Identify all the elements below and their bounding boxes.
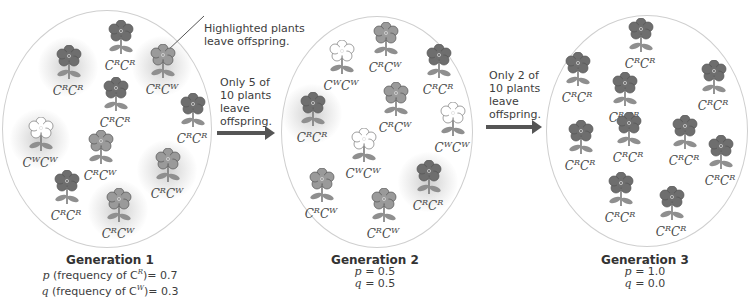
flower-plant: CRCR — [46, 170, 86, 226]
flower-icon — [565, 52, 591, 90]
flower-icon — [300, 92, 326, 130]
genotype-label: CRCW — [357, 60, 413, 75]
genotype-label: CRCR — [284, 130, 340, 145]
flower-icon — [56, 45, 82, 83]
note-line: Highlighted plants — [204, 22, 305, 35]
genotype-label: CRCR — [38, 208, 94, 223]
note-line: 10 plants — [489, 82, 541, 95]
transition-1-arrow-icon — [217, 131, 267, 135]
flower-icon — [28, 117, 54, 155]
flower-icon — [351, 128, 377, 166]
flower-plant: CRCW — [363, 188, 403, 244]
flower-plant: CRCR — [600, 172, 640, 228]
q-symbol: q — [625, 277, 632, 290]
flower-icon — [150, 44, 176, 82]
note-line: Only 5 of — [220, 76, 272, 89]
flower-icon — [180, 93, 206, 131]
flower-plant: CRCW — [80, 130, 120, 186]
genotype-label: CRCR — [600, 150, 656, 165]
flower-icon — [426, 44, 452, 82]
note-line: leave — [489, 95, 541, 108]
flower-plant: CRCR — [664, 115, 704, 171]
note-line: leave — [220, 102, 272, 115]
note-line: leave offspring. — [204, 35, 305, 48]
p-label: (frequency of C — [50, 269, 138, 282]
flower-plant: CRCR — [560, 120, 600, 176]
flower-icon — [108, 20, 134, 58]
generation-title: Generation 1 — [20, 254, 200, 266]
flower-icon — [608, 172, 634, 210]
highlighted-plants-note: Highlighted plants leave offspring. — [204, 22, 305, 48]
q-label: (frequency of C — [49, 284, 137, 297]
genotype-label: CWCW — [335, 166, 391, 181]
flower-plant: CWCW — [432, 102, 472, 158]
genotype-label: CWCW — [12, 155, 68, 170]
flower-icon — [659, 186, 685, 224]
genotype-label: CRCW — [90, 226, 146, 241]
note-line: 10 plants — [220, 89, 272, 102]
genotype-label: CRCR — [400, 198, 456, 213]
flower-plant: CRCR — [292, 92, 332, 148]
flower-icon — [701, 60, 727, 98]
flower-plant: CRCR — [95, 77, 135, 133]
flower-icon — [329, 40, 355, 78]
p-symbol: p — [42, 269, 49, 282]
flower-plant: CRCR — [620, 18, 660, 74]
flower-icon — [106, 188, 132, 226]
generation-3-caption: Generation 3 p = 1.0 q = 0.0 — [585, 254, 705, 290]
flower-plant: CRCR — [48, 45, 88, 101]
genotype-label: CRCR — [692, 173, 748, 188]
q-value: )= 0.3 — [144, 284, 179, 297]
q-value: = 0.0 — [632, 277, 666, 290]
flower-plant: CRCR — [408, 160, 448, 216]
flower-icon — [628, 18, 654, 56]
transition-1-note: Only 5 of 10 plants leave offspring. — [220, 76, 272, 128]
flower-icon — [88, 130, 114, 168]
flower-plant: CRCW — [142, 44, 182, 100]
genotype-label: CRCW — [355, 226, 411, 241]
flower-plant: CRCW — [365, 22, 405, 78]
flower-plant: CWCW — [20, 117, 60, 173]
note-line: Only 2 of — [489, 69, 541, 82]
flower-plant: CRCR — [418, 44, 458, 100]
genotype-label: CRCR — [87, 115, 143, 130]
p-value: )= 0.7 — [143, 269, 178, 282]
flower-plant: CRCR — [608, 112, 648, 168]
flower-icon — [383, 82, 409, 120]
flower-icon — [54, 170, 80, 208]
genotype-label: CRCW — [139, 186, 195, 201]
flower-plant: CRCW — [98, 188, 138, 244]
flower-plant: CRCW — [301, 168, 341, 224]
genotype-label: CRCR — [643, 224, 699, 239]
flower-icon — [416, 160, 442, 198]
q-value: = 0.5 — [362, 277, 396, 290]
flower-icon — [612, 72, 638, 110]
flower-plant: CRCR — [172, 93, 212, 149]
flower-icon — [672, 115, 698, 153]
q-frequency: q = 0.5 — [315, 278, 435, 290]
flower-icon — [309, 168, 335, 206]
genotype-label: CRCR — [592, 210, 648, 225]
flower-plant: CRCR — [651, 186, 691, 242]
flower-icon — [103, 77, 129, 115]
flower-plant: CRCW — [147, 148, 187, 204]
flower-plant: CRCR — [693, 60, 733, 116]
flower-icon — [568, 120, 594, 158]
flower-icon — [616, 112, 642, 150]
flower-icon — [371, 188, 397, 226]
generation-1-caption: Generation 1 p (frequency of CR)= 0.7 q … — [20, 254, 200, 297]
transition-2-arrow-icon — [486, 125, 534, 129]
genotype-label: CRCR — [612, 56, 668, 71]
genotype-label: CRCR — [549, 90, 605, 105]
flower-plant: CRCR — [700, 135, 740, 191]
q-allele: W — [137, 284, 144, 292]
p-frequency: p (frequency of CR)= 0.7 — [20, 266, 200, 282]
genotype-label: CRCW — [293, 206, 349, 221]
flower-plant: CWCW — [343, 128, 383, 184]
generation-2-caption: Generation 2 p = 0.5 q = 0.5 — [315, 254, 435, 290]
q-frequency: q = 0.0 — [585, 278, 705, 290]
genotype-label: CRCR — [685, 98, 741, 113]
genotype-label: CRCR — [40, 83, 96, 98]
genotype-label: CRCR — [410, 82, 466, 97]
q-symbol: q — [42, 284, 49, 297]
